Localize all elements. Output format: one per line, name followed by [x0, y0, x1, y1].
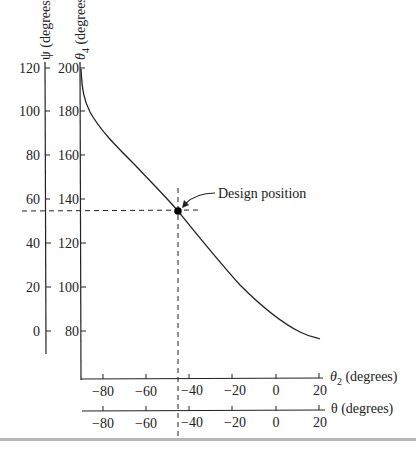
svg-text:−40: −40: [181, 415, 203, 430]
psi-axis-label: ψ (degrees): [38, 0, 54, 60]
theta2-axis-label: θ2 (degrees): [330, 369, 398, 387]
svg-text:−60: −60: [135, 416, 157, 431]
design-position-label: Design position: [218, 186, 306, 201]
svg-text:0: 0: [273, 383, 280, 398]
svg-text:60: 60: [26, 192, 40, 207]
bottom-rule: [0, 438, 416, 441]
svg-text:−40: −40: [181, 383, 203, 398]
design-arrow: [185, 193, 215, 204]
svg-text:180: 180: [58, 104, 79, 119]
svg-text:100: 100: [58, 280, 79, 295]
svg-text:−20: −20: [224, 415, 246, 430]
theta4-axis-label: θ4 (degrees): [73, 0, 91, 60]
svg-text:20: 20: [313, 383, 327, 398]
theta-axis-label: θ (degrees): [331, 401, 394, 417]
theta4-tick-labels: 200 180 160 140 120 100 80: [58, 61, 79, 339]
theta4-axis-line: [80, 62, 81, 380]
svg-text:140: 140: [58, 192, 79, 207]
svg-text:−60: −60: [135, 384, 157, 399]
svg-text:80: 80: [26, 148, 40, 163]
svg-text:120: 120: [19, 61, 40, 76]
theta4-curve: [81, 69, 320, 339]
svg-text:100: 100: [19, 104, 40, 119]
svg-text:0: 0: [33, 324, 40, 339]
svg-text:20: 20: [26, 280, 40, 295]
svg-text:20: 20: [313, 415, 327, 430]
svg-text:−80: −80: [92, 416, 114, 431]
psi-tick-labels: 120 100 80 60 40 20 0: [19, 61, 40, 339]
svg-text:0: 0: [273, 415, 280, 430]
svg-text:200: 200: [58, 61, 79, 76]
theta-tick-labels: −80 −60 −40 −20 0 20: [92, 415, 327, 431]
theta2-axis-line: [81, 378, 323, 379]
chart: ψ (degrees) θ4 (degrees) 120 100 80 60 4…: [0, 0, 416, 452]
svg-text:−20: −20: [224, 383, 246, 398]
svg-text:40: 40: [26, 236, 40, 251]
svg-text:80: 80: [65, 324, 79, 339]
svg-text:160: 160: [58, 148, 79, 163]
theta2-tick-labels: −80 −60 −40 −20 0 20: [92, 383, 327, 399]
psi-axis-line: [45, 62, 46, 354]
svg-text:120: 120: [58, 236, 79, 251]
design-point-marker: [174, 207, 182, 215]
theta-axis-line: [82, 410, 325, 411]
svg-text:−80: −80: [92, 384, 114, 399]
